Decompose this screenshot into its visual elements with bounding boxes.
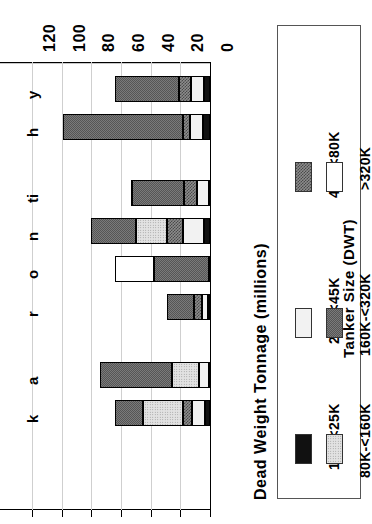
legend-swatch <box>295 308 312 338</box>
bar-segment[interactable] <box>183 114 190 140</box>
bar-segment[interactable] <box>115 256 154 282</box>
axis-tick <box>151 510 152 517</box>
legend-swatch <box>326 308 343 338</box>
bar-segment[interactable] <box>209 362 211 388</box>
axis-tick <box>210 510 211 517</box>
bar[interactable] <box>115 256 210 282</box>
bar[interactable] <box>131 180 210 206</box>
bar-segment[interactable] <box>143 400 183 426</box>
bar-segment[interactable] <box>190 114 203 140</box>
bar-segment[interactable] <box>183 400 193 426</box>
bar-segment[interactable] <box>199 362 209 388</box>
bar[interactable] <box>91 218 210 244</box>
axis-tick-label: 0 <box>219 43 237 52</box>
bar-segment[interactable] <box>136 218 167 244</box>
bars-layer <box>0 62 211 510</box>
bar-segment[interactable] <box>172 362 199 388</box>
axis-tick-label: 40 <box>160 33 178 52</box>
bar-segment[interactable] <box>179 76 191 102</box>
bar-segment[interactable] <box>204 76 210 102</box>
bar-segment[interactable] <box>192 400 205 426</box>
axis-title: Dead Weight Tonnage (millions) <box>252 243 270 500</box>
chart-root: 020406080100120 Dead Weight Tonnage (mil… <box>0 0 372 524</box>
axis-tick-label: 100 <box>71 24 89 52</box>
axis-tick <box>121 510 122 517</box>
bar[interactable] <box>167 294 210 320</box>
legend-label: 160K-<320K <box>357 273 372 356</box>
axis-tick <box>180 510 181 517</box>
bar-segment[interactable] <box>154 256 209 282</box>
bar-segment[interactable] <box>194 294 202 320</box>
bar-segment[interactable] <box>167 294 194 320</box>
bar-segment[interactable] <box>208 294 210 320</box>
legend-swatch <box>295 434 312 464</box>
bar-segment[interactable] <box>184 180 197 206</box>
bar-segment[interactable] <box>183 218 204 244</box>
bar-segment[interactable] <box>91 218 136 244</box>
bar-segment[interactable] <box>209 256 211 282</box>
bar[interactable] <box>63 114 210 140</box>
bar-segment[interactable] <box>203 114 210 140</box>
axis-tick <box>62 510 63 517</box>
axis-tick <box>32 510 33 517</box>
legend-label: >320K <box>357 147 372 190</box>
legend: Tanker Size (DWT) 10K-<25K25K-<45K45K-<8… <box>277 25 361 499</box>
bar[interactable] <box>115 400 210 426</box>
bar-segment[interactable] <box>167 218 183 244</box>
legend-swatch <box>326 162 343 192</box>
axis-tick <box>91 510 92 517</box>
legend-label: 80K-<160K <box>357 403 372 478</box>
bar-segment[interactable] <box>197 180 209 206</box>
bar-segment[interactable] <box>202 294 208 320</box>
bar-segment[interactable] <box>63 114 182 140</box>
bar-segment[interactable] <box>132 180 184 206</box>
bar[interactable] <box>115 76 210 102</box>
bar-segment[interactable] <box>209 180 211 206</box>
bar-segment[interactable] <box>205 400 210 426</box>
axis-tick-label: 60 <box>130 33 148 52</box>
bar-segment[interactable] <box>100 362 172 388</box>
bar-segment[interactable] <box>204 218 210 244</box>
axis-tick-label: 80 <box>100 33 118 52</box>
bar-segment[interactable] <box>191 76 204 102</box>
bar[interactable] <box>100 362 210 388</box>
legend-swatch <box>295 162 312 192</box>
bar-segment[interactable] <box>131 180 133 206</box>
bar-segment[interactable] <box>115 400 142 426</box>
bar-segment[interactable] <box>115 76 179 102</box>
axis-tick-label: 120 <box>41 24 59 52</box>
axis-tick-label: 20 <box>189 33 207 52</box>
legend-swatch <box>326 434 343 464</box>
